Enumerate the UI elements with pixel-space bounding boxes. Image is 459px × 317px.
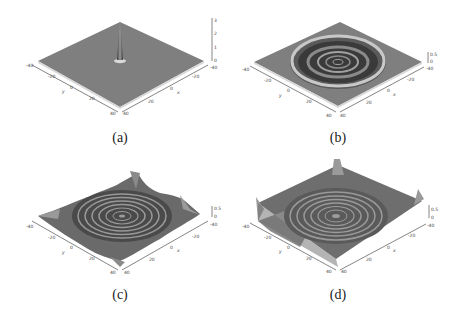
svg-text:0: 0 [430,59,433,64]
svg-text:-40: -40 [210,65,217,70]
svg-text:y: y [278,249,282,254]
svg-text:40: 40 [326,269,332,274]
svg-text:0: 0 [387,245,390,250]
svg-text:20: 20 [366,257,372,262]
svg-text:y: y [61,250,65,255]
svg-text:20: 20 [89,96,95,101]
svg-text:0: 0 [214,214,217,219]
svg-text:0.5: 0.5 [430,52,437,57]
svg-text:0.5: 0.5 [214,206,221,211]
svg-text:20: 20 [366,100,372,105]
svg-text:-40: -40 [210,222,217,227]
svg-text:20: 20 [89,256,95,261]
panel-a: -40 -20 0 20 40 y 40 20 0 -20 -40 x 0 1 … [0,0,229,158]
svg-text:x: x [176,248,180,253]
svg-text:0: 0 [70,85,73,90]
caption-d: (d) [318,287,358,303]
svg-text:40: 40 [326,113,332,118]
panel-c: -40 -20 0 20 40 y 40 20 0 -20 -40 x 0 0.… [0,159,229,317]
svg-text:40: 40 [123,111,129,116]
svg-text:0: 0 [387,88,390,93]
svg-text:-40: -40 [26,224,33,229]
svg-text:-40: -40 [426,66,433,71]
caption-c: (c) [100,287,140,303]
svg-text:x: x [392,248,396,253]
svg-text:0: 0 [287,245,290,250]
svg-text:-20: -20 [192,234,199,239]
svg-text:0: 0 [431,215,434,220]
svg-text:2: 2 [214,31,217,36]
svg-text:0: 0 [287,88,290,93]
svg-text:3: 3 [214,18,217,23]
svg-text:40: 40 [340,113,346,118]
svg-text:40: 40 [341,269,347,274]
svg-text:20: 20 [148,99,154,104]
panel-b: -40 -20 0 20 40 y 40 20 0 -20 -40 x 0 0.… [230,0,459,158]
svg-text:0: 0 [214,58,217,63]
svg-text:-20: -20 [48,74,55,79]
svg-text:1: 1 [214,45,217,50]
svg-text:-20: -20 [48,235,55,240]
svg-text:-20: -20 [264,235,271,240]
svg-text:-20: -20 [264,78,271,83]
svg-text:-40: -40 [242,224,249,229]
svg-text:20: 20 [149,257,155,262]
x-axis-label: x [176,90,180,95]
caption-a: (a) [100,130,140,146]
svg-text:y: y [278,93,282,98]
svg-text:40: 40 [110,111,116,116]
caption-b: (b) [318,130,358,146]
y-axis-label: y [61,89,65,94]
svg-text:0: 0 [70,245,73,250]
svg-text:x: x [392,92,396,97]
svg-text:-40: -40 [242,67,249,72]
svg-text:0: 0 [170,245,173,250]
svg-text:20: 20 [306,99,312,104]
svg-text:40: 40 [124,270,130,275]
svg-text:0.5: 0.5 [431,207,438,212]
svg-text:40: 40 [110,270,116,275]
svg-text:20: 20 [306,256,312,261]
panel-d: -40 -20 0 20 40 y 40 20 0 -20 -40 x 0 0.… [230,159,459,317]
svg-text:-20: -20 [407,77,414,82]
svg-text:0: 0 [170,86,173,91]
svg-text:-40: -40 [427,223,434,228]
svg-text:-20: -20 [192,74,199,79]
svg-text:-20: -20 [408,233,415,238]
y-tick: -40 [26,63,33,68]
